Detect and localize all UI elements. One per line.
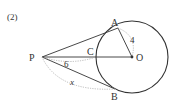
pc-length-label: 6 <box>64 59 69 69</box>
radius-length-label: 4 <box>130 35 135 45</box>
problem-number-label: (2) <box>7 12 18 22</box>
point-label-o: O <box>136 52 143 63</box>
tangent-secant-diagram: (2) P A B C O 4 6 x <box>0 0 179 104</box>
center-point-o <box>131 56 134 59</box>
point-label-p: P <box>29 52 35 63</box>
pb-length-label: x <box>69 77 74 87</box>
tangent-line-pa <box>42 28 118 57</box>
point-label-a: A <box>111 17 119 28</box>
point-label-c: C <box>87 46 94 57</box>
point-label-b: B <box>111 91 118 102</box>
